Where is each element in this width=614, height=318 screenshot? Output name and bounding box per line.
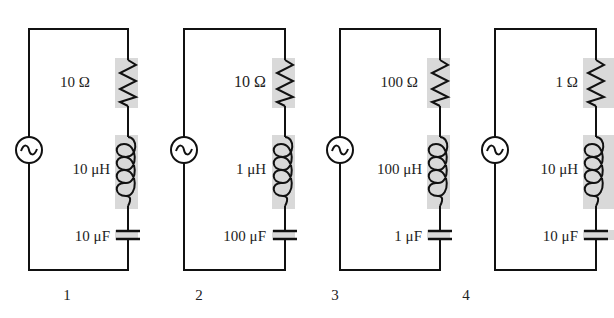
- rlc-circuits-diagram: 10 Ω 10 μH 10 μF 1: [0, 0, 614, 318]
- circuit-4: 1 Ω 10 μH 10 μF 4: [0, 0, 614, 318]
- inductance-label: 10 μH: [492, 160, 578, 178]
- circuit-4-schematic: [0, 0, 614, 318]
- resistance-label: 1 Ω: [530, 73, 578, 91]
- circuit-number: 4: [456, 286, 476, 304]
- capacitance-label: 10 μF: [492, 227, 578, 245]
